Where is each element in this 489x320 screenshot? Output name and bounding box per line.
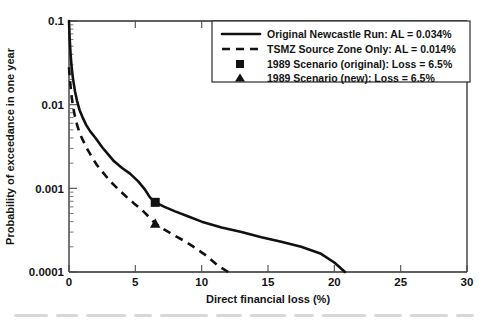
x-tick-label-30: 30 (461, 276, 474, 288)
exceedance-probability-chart: 0 5 10 15 20 25 30 0.1 0.01 0.001 0.0001… (0, 0, 489, 320)
legend-label-2: 1989 Scenario (original): Loss = 6.5% (267, 58, 453, 70)
y-tick-label-0.0001: 0.0001 (29, 266, 65, 278)
x-axis-title: Direct financial loss (%) (206, 293, 330, 305)
marker-square-1989-original (151, 198, 160, 207)
legend-label-0: Original Newcastle Run: AL = 0.034% (267, 28, 452, 40)
x-tick-label-15: 15 (262, 276, 275, 288)
chart-legend: Original Newcastle Run: AL = 0.034% TSMZ… (212, 21, 470, 84)
x-tick-label-10: 10 (195, 276, 208, 288)
x-tick-label-0: 0 (66, 276, 72, 288)
y-tick-label-0.001: 0.001 (35, 183, 64, 195)
y-tick-label-0.1: 0.1 (48, 15, 65, 27)
x-tick-label-25: 25 (394, 276, 407, 288)
legend-label-3: 1989 Scenario (new): Loss = 6.5% (267, 72, 435, 84)
y-tick-label-0.01: 0.01 (42, 99, 65, 111)
y-axis-title: Probability of exceedance in one year (4, 47, 16, 245)
x-tick-label-20: 20 (328, 276, 341, 288)
legend-swatch-square-marker (236, 60, 244, 68)
legend-label-1: TSMZ Source Zone Only: AL = 0.014% (267, 43, 456, 55)
x-tick-label-5: 5 (132, 276, 139, 288)
